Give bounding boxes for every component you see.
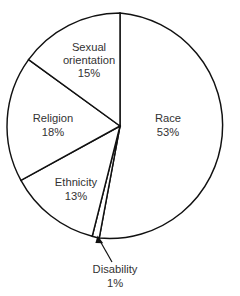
slice-label-disability: Disability [93,263,138,275]
slice-label-ethnicity: Ethnicity [55,176,98,188]
disability-leader-line [100,240,113,262]
slice-value-ethnicity: 13% [65,190,87,202]
slice-label-sexual-orientation: Sexual [72,41,106,53]
slice-label-religion: Religion [33,112,73,124]
slice-label-sexual-orientation-line2: orientation [63,54,115,66]
slice-value-sexual-orientation: 15% [78,67,100,79]
slice-label-race: Race [155,112,181,124]
pie-chart-canvas: Race 53% Religion 18% Sexual orientation… [0,0,240,296]
slice-value-race: 53% [157,126,179,138]
slice-value-disability: 1% [107,277,123,289]
slice-value-religion: 18% [42,126,64,138]
pie-chart: Race 53% Religion 18% Sexual orientation… [0,0,240,296]
